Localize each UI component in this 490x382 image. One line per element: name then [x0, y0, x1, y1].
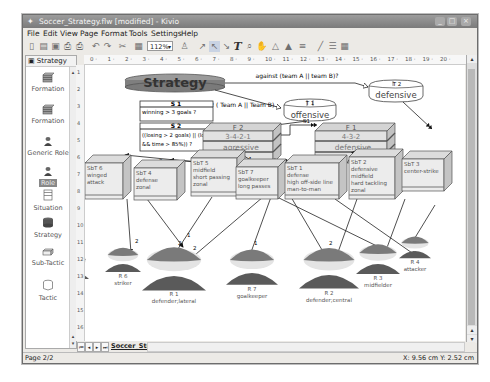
- stencil-title: Strategy: [37, 57, 67, 65]
- subtactic-line: center-strike: [404, 168, 439, 174]
- role-id: R 4: [410, 259, 420, 265]
- role-body: [105, 264, 141, 272]
- strategy-node[interactable]: Strategy: [125, 74, 225, 92]
- kivio-window: ✦ Soccer_Strategy.flw [modified] - Kivio…: [22, 14, 478, 364]
- edge-t2-f1: [403, 102, 432, 129]
- menu-format[interactable]: Format: [101, 28, 127, 39]
- minimize-button[interactable]: _: [435, 17, 445, 26]
- situation-icon: [42, 188, 54, 202]
- stencil-header[interactable]: ▣ Strategy: [26, 56, 76, 67]
- cut-icon[interactable]: ✂: [117, 41, 128, 52]
- menu-settings[interactable]: Settings: [151, 28, 182, 39]
- subtactic-id: SbT 7: [238, 169, 254, 175]
- stencil-scrollbar[interactable]: ▴ ▴ ▾: [69, 67, 76, 348]
- select-icon[interactable]: ↖: [209, 41, 220, 52]
- text-tool-icon[interactable]: T: [232, 41, 243, 52]
- scroll-up-icon[interactable]: ▴: [467, 55, 477, 63]
- fill-color-icon[interactable]: ▲: [283, 41, 294, 52]
- situation-s1[interactable]: S 1 winning > 3 goals ?: [140, 100, 213, 121]
- menu-page[interactable]: Page: [80, 28, 98, 39]
- close-button[interactable]: ×: [461, 17, 471, 26]
- scroll-up-icon[interactable]: ▴: [467, 326, 477, 334]
- stencil-situation[interactable]: Situation: [26, 188, 70, 212]
- open-icon[interactable]: ▤: [38, 41, 49, 52]
- ruler-tick: 1: [77, 69, 80, 75]
- menu-tools[interactable]: Tools: [129, 28, 147, 39]
- stencil-label: Strategy: [34, 231, 62, 239]
- prev-page-icon[interactable]: ◂: [85, 342, 93, 352]
- situation-id: S 1: [171, 100, 182, 107]
- zoom-select[interactable]: 112%▾: [147, 41, 173, 51]
- edge-label: 2: [329, 240, 333, 246]
- stencil-tactic[interactable]: Tactic: [26, 278, 70, 302]
- tactic-t2[interactable]: T 2 defensive: [369, 80, 423, 102]
- new-icon[interactable]: ▯: [26, 41, 37, 52]
- stencil-label: Formation: [32, 85, 65, 93]
- stencil-formation-1[interactable]: Formation: [26, 72, 70, 93]
- situation-text-line2: && time > 85%)) ?: [142, 141, 192, 147]
- zoom-tool-icon[interactable]: ⌕: [244, 41, 255, 52]
- toolbar: ▯ ▤ ▣ ⎙ ⎙ ↶ ↷ ✂ ▦ 112%▾ ♙ ↗ ↖ ↘ T ⌕ ✋ △ …: [23, 39, 477, 54]
- paste-icon[interactable]: ▦: [133, 41, 144, 52]
- last-page-icon[interactable]: ⏭: [101, 342, 109, 352]
- stencil-strategy[interactable]: Strategy: [26, 216, 70, 239]
- role-r4[interactable]: R 4attacker: [399, 237, 431, 273]
- role-r3[interactable]: R 3midfielder: [356, 244, 400, 288]
- print-preview-icon[interactable]: ⎙: [62, 41, 73, 52]
- tactic-t1[interactable]: T 1 offensive: [284, 99, 336, 121]
- redo-icon[interactable]: ↷: [102, 41, 113, 52]
- ruler-tick: 12: [77, 256, 83, 262]
- first-page-icon[interactable]: ⏮: [77, 342, 85, 352]
- next-page-icon[interactable]: ▸: [93, 342, 101, 352]
- line-width-icon[interactable]: ╱: [315, 41, 326, 52]
- stencil-generic-role[interactable]: Generic Role: [26, 136, 70, 157]
- subtactic-sbt4[interactable]: SbT 4defensezonal: [134, 160, 185, 200]
- edge-subtactic-role: [385, 199, 405, 253]
- connector-icon[interactable]: ↗: [197, 41, 208, 52]
- ruler-tick: 16 ·: [370, 55, 381, 64]
- horizontal-scrollbar[interactable]: [147, 342, 465, 352]
- ruler-tick: 2 ·: [125, 55, 132, 64]
- line-color-icon[interactable]: △: [270, 41, 281, 52]
- connector-tool-icon[interactable]: ↘: [221, 41, 232, 52]
- role-r6[interactable]: R 6striker: [105, 248, 141, 286]
- app-icon: ✦: [27, 15, 34, 28]
- diagram-canvas[interactable]: Strategy against (team A || team B)? ! (…: [85, 65, 465, 341]
- stencil-icon[interactable]: ♙: [179, 41, 190, 52]
- scrollbar-thumb[interactable]: [468, 69, 475, 325]
- undo-icon[interactable]: ↶: [90, 41, 101, 52]
- menu-file[interactable]: File: [27, 28, 40, 39]
- pan-tool-icon[interactable]: ✋: [256, 41, 267, 52]
- subtactic-sbt7[interactable]: SbT 7goalkeeperlong passes: [236, 159, 286, 199]
- stencil-formation-2[interactable]: Formation: [26, 104, 70, 125]
- role-r2[interactable]: R 2defender;central: [299, 248, 359, 303]
- strategy-label: Strategy: [143, 75, 207, 90]
- save-icon[interactable]: ▣: [50, 41, 61, 52]
- role-r5[interactable]: R 5winger: [85, 252, 89, 294]
- role-r7[interactable]: R 7goalkeeper: [226, 250, 278, 300]
- subtactic-line: man-to-man: [287, 186, 322, 192]
- subtactic-sbt3[interactable]: SbT 3center-strike: [402, 151, 452, 191]
- grid-icon[interactable]: ▦: [339, 41, 350, 52]
- text-color-icon[interactable]: ≡: [297, 41, 308, 52]
- maximize-button[interactable]: □: [447, 17, 457, 26]
- role-name: goalkeeper: [237, 293, 268, 300]
- vertical-scrollbar[interactable]: ▴ ▴ ▾: [466, 55, 477, 343]
- align-icon[interactable]: ☰: [327, 41, 338, 52]
- subtactic-line: midfield: [351, 173, 373, 179]
- subtactic-sbt1[interactable]: SbT 1defensehigh off-side lineman-to-man: [285, 155, 347, 199]
- subtactic-line: high off-side line: [287, 179, 333, 186]
- box-side: [339, 155, 347, 199]
- role-head: [230, 250, 274, 262]
- scroll-down-icon[interactable]: ▾: [70, 340, 76, 347]
- vertical-ruler: 12345678910111213141516: [76, 65, 85, 341]
- subtactic-sbt6[interactable]: SbT 6wingedattack: [85, 155, 131, 199]
- stencil-role[interactable]: Role: [26, 166, 70, 187]
- role-r1[interactable]: R 1defender;lateral: [142, 247, 206, 304]
- stencil-sub-tactic[interactable]: Sub-Tactic: [26, 246, 70, 267]
- print-icon[interactable]: ⎙: [74, 41, 85, 52]
- subtactic-sbt2[interactable]: SbT 2defensivemidfieldhard tacklingzonal: [349, 149, 403, 199]
- menu-edit[interactable]: Edit: [43, 28, 58, 39]
- menu-view[interactable]: View: [60, 28, 78, 39]
- menu-help[interactable]: Help: [181, 28, 198, 39]
